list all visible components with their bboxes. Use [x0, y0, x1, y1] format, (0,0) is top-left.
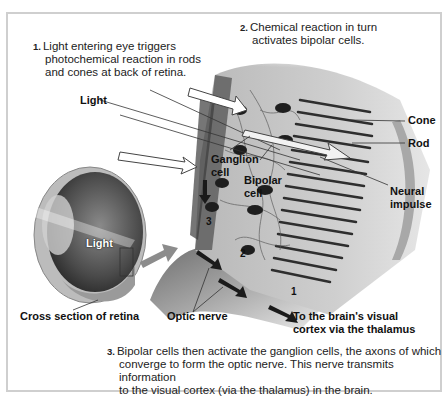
label-rod: Rod	[408, 137, 429, 150]
label-cross-section: Cross section of retina	[20, 310, 139, 323]
layer-number-1: 1	[291, 286, 297, 297]
layer-number-2: 2	[240, 248, 246, 259]
label-neural-impulse: Neural impulse	[390, 185, 432, 211]
step-2-text: 2.Chemical reaction in turn activates bi…	[240, 21, 377, 47]
eye-cross-section	[28, 167, 146, 303]
label-cone: Cone	[408, 114, 436, 127]
label-light: Light	[80, 94, 107, 107]
step-3-text: 3.Bipolar cells then activate the gangli…	[107, 345, 448, 397]
label-brain-visual-cortex: To the brain's visual cortex via the tha…	[293, 310, 415, 336]
label-optic-nerve: Optic nerve	[167, 310, 228, 323]
step-1-text: 1.Light entering eye triggers photochemi…	[33, 40, 201, 79]
label-light-eye: Light	[86, 237, 113, 250]
layer-number-3: 3	[206, 216, 212, 227]
label-bipolar-cell: Bipolar cell	[244, 174, 282, 200]
